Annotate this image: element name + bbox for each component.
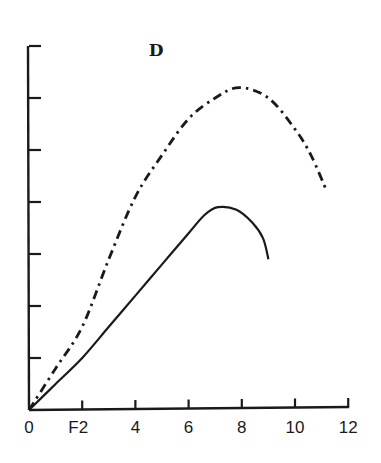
x-tick-label: 8	[237, 418, 246, 437]
y-axis	[28, 46, 29, 410]
x-tick-label: 12	[339, 418, 358, 437]
x-tick-label: 4	[131, 418, 140, 437]
x-tick-label: 10	[286, 418, 305, 437]
axes: 0F24681012	[24, 46, 357, 437]
x-tick-label: 6	[184, 418, 193, 437]
series-group	[29, 88, 327, 410]
panel-label: D	[149, 40, 164, 60]
x-tick-label: 0	[24, 418, 33, 437]
dash-dot-curve	[29, 88, 327, 410]
line-chart: 0F24681012 D	[0, 0, 381, 463]
x-tick-label: F2	[68, 418, 88, 437]
solid-curve	[29, 207, 268, 410]
